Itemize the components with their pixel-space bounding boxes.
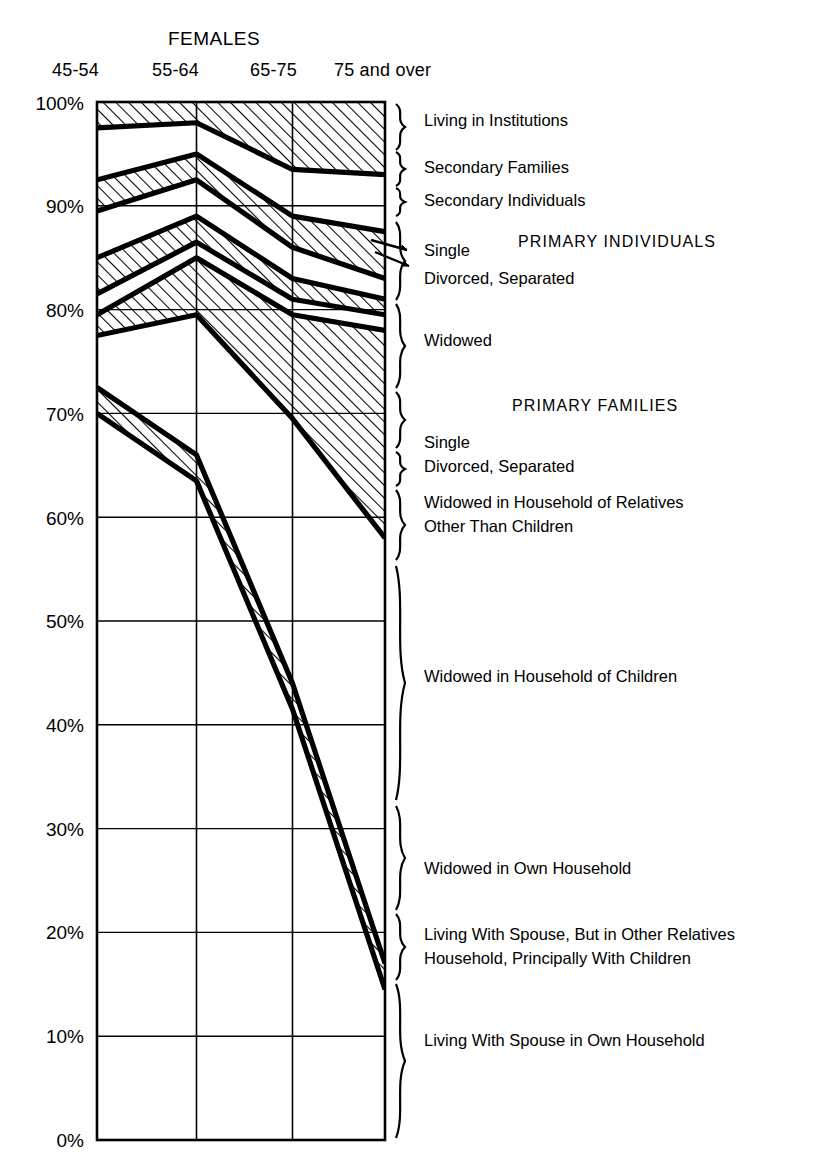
legend-living-in-institutions: Living in Institutions (424, 110, 568, 130)
legend-secondary-individuals: Secondary Individuals (424, 190, 585, 210)
legend-pf-widowed-relatives-line1: Widowed in Household of Relatives (424, 492, 684, 512)
brace (396, 152, 405, 186)
brace (396, 984, 405, 1138)
legend-pf-divorced: Divorced, Separated (424, 456, 574, 476)
legend-pi-divorced: Divorced, Separated (424, 268, 574, 288)
legend-braces (396, 104, 405, 1138)
brace (396, 490, 405, 560)
brace (396, 566, 405, 800)
legend-pf-spouse-own: Living With Spouse in Own Household (424, 1030, 705, 1050)
legend-pf-widowed-children: Widowed in Household of Children (424, 666, 677, 686)
brace (396, 806, 405, 910)
legend-pf-single: Single (424, 432, 470, 452)
brace (396, 914, 405, 980)
brace (396, 104, 405, 150)
brace (396, 392, 405, 448)
group-heading-primary-individuals: PRIMARY INDIVIDUALS (518, 232, 716, 252)
chart-canvas (0, 0, 834, 1171)
chart-page: FEMALES 45-54 55-64 65-75 75 and over 10… (0, 0, 834, 1171)
legend-pf-widowed-own: Widowed in Own Household (424, 858, 631, 878)
group-heading-primary-families: PRIMARY FAMILIES (512, 396, 678, 416)
brace (396, 452, 405, 486)
legend-pi-widowed: Widowed (424, 330, 492, 350)
legend-secondary-families: Secondary Families (424, 157, 569, 177)
legend-pi-single: Single (424, 240, 470, 260)
legend-pf-widowed-relatives-line2: Other Than Children (424, 516, 573, 536)
legend-pf-spouse-other-line2: Household, Principally With Children (424, 948, 691, 968)
legend-pf-spouse-other-line1: Living With Spouse, But in Other Relativ… (424, 924, 735, 944)
brace (396, 304, 405, 388)
brace (396, 188, 405, 216)
